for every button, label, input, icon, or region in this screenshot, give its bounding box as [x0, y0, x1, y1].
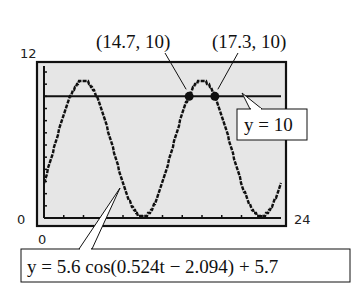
intersection-point — [185, 92, 194, 101]
x-max-label: 24 — [294, 212, 311, 227]
intersection-point — [210, 92, 219, 101]
x-min-label: 0 — [38, 232, 46, 247]
hline-label: y = 10 — [244, 114, 293, 135]
y-min-label: 0 — [17, 212, 25, 227]
point-label-1: (14.7, 10) — [96, 31, 170, 53]
chart: y = 10y = 5.6 cos(0.524t − 2.094) + 5.7 … — [0, 0, 357, 301]
y-max-label: 12 — [20, 46, 37, 61]
curve-label: y = 5.6 cos(0.524t − 2.094) + 5.7 — [27, 256, 278, 278]
point-label-2: (17.3, 10) — [212, 31, 286, 53]
